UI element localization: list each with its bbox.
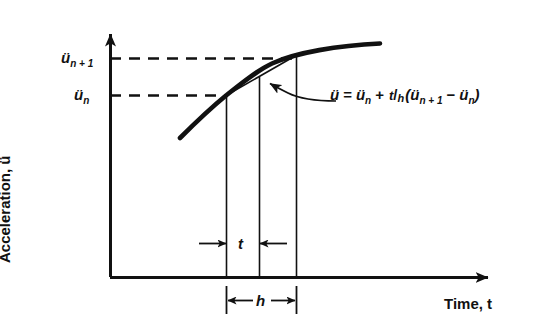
linear-interpolation-chord bbox=[226, 56, 296, 96]
y-tick-sub-u-n-plus-1: n + 1 bbox=[70, 58, 93, 69]
equation-leader-arrow bbox=[270, 84, 336, 102]
equation-lhs: ü bbox=[330, 86, 339, 103]
h-dimension-label: h bbox=[256, 293, 265, 308]
equation-term2-sub: n + 1 bbox=[419, 95, 442, 106]
x-axis-label: Time, t bbox=[444, 296, 492, 311]
t-dimension-label: t bbox=[238, 236, 243, 251]
y-axis-label: Acceleration, ü bbox=[0, 155, 12, 263]
equation-fraction-t-over-h: t/h bbox=[388, 87, 405, 102]
equation-frac-denominator: h bbox=[398, 92, 405, 104]
y-tick-base-u-n: ü bbox=[74, 86, 83, 103]
equation-plus: + bbox=[371, 86, 388, 103]
y-tick-base-u-n-plus-1: ü bbox=[61, 49, 70, 66]
equation-close-paren: ) bbox=[475, 86, 480, 103]
y-tick-sub-u-n: n bbox=[83, 95, 89, 106]
equation-frac-slash: / bbox=[393, 86, 397, 103]
interpolation-equation: ü=ün+t/h(ün + 1−ün) bbox=[330, 87, 480, 106]
y-tick-label-u-n: ün bbox=[74, 87, 89, 106]
equation-term1-base: ü bbox=[356, 86, 365, 103]
acceleration-interpolation-figure: Acceleration, ü Time, t ün + 1 ün t h ü=… bbox=[0, 0, 553, 333]
y-tick-label-u-n-plus-1: ün + 1 bbox=[61, 50, 93, 69]
equation-minus: − bbox=[442, 86, 459, 103]
equation-equals: = bbox=[339, 86, 356, 103]
